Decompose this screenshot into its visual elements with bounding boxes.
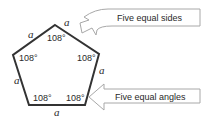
pentagon-diagram: a a a a a 108° 108° 108° 108° 108° Five … <box>0 0 213 124</box>
side-label-top-right: a <box>64 16 70 28</box>
angle-label-lower-right: 108° <box>66 93 85 103</box>
callout-label-sides: Five equal sides <box>117 13 183 23</box>
angle-label-upper-right: 108° <box>77 53 96 63</box>
angle-label-lower-left: 108° <box>33 93 52 103</box>
side-label-bottom: a <box>54 106 60 118</box>
callout-label-angles: Five equal angles <box>115 92 186 102</box>
angle-label-top: 108° <box>47 33 66 43</box>
angle-label-upper-left: 108° <box>19 53 38 63</box>
side-label-top-left: a <box>28 28 34 40</box>
side-label-left: a <box>14 74 20 86</box>
side-label-right: a <box>99 64 105 76</box>
